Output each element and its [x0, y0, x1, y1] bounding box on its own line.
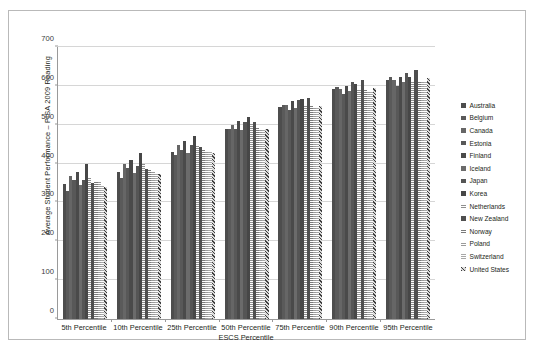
- x-axis-tick-mark: [380, 319, 381, 322]
- bar-group: [381, 47, 435, 319]
- x-axis-title: ESCS Percentile: [57, 333, 435, 342]
- x-axis-tick-label: 95th Percentile: [381, 323, 435, 332]
- legend-item-label: Switzerland: [470, 253, 504, 260]
- legend-item[interactable]: Estonia: [461, 137, 527, 150]
- legend-item[interactable]: United States: [461, 263, 527, 276]
- bar-group: [220, 47, 274, 319]
- legend-item-label: Netherlands: [470, 203, 506, 210]
- legend-swatch-icon: [461, 153, 466, 158]
- legend-item-label: Finland: [470, 152, 492, 159]
- legend-item[interactable]: Japan: [461, 175, 527, 188]
- legend-item-label: Australia: [470, 102, 496, 109]
- plot-area: 0100200300400500600700: [57, 47, 435, 320]
- x-axis-tick-mark: [219, 319, 220, 322]
- y-axis-tick-label: 400: [41, 150, 54, 159]
- bar-group: [273, 47, 327, 319]
- x-axis-tick-mark: [111, 319, 112, 322]
- legend-swatch-icon: [461, 242, 466, 247]
- legend-item-label: Estonia: [470, 140, 492, 147]
- legend-swatch-icon: [461, 229, 466, 234]
- legend-item[interactable]: Belgium: [461, 112, 527, 125]
- y-axis-tick-label: 200: [41, 228, 54, 237]
- legend-item-label: Iceland: [470, 165, 491, 172]
- legend-item-label: New Zealand: [470, 215, 509, 222]
- legend-swatch-icon: [461, 267, 466, 272]
- legend-swatch-icon: [461, 116, 466, 121]
- y-axis-tick-label: 600: [41, 72, 54, 81]
- bar[interactable]: [212, 153, 215, 319]
- chart-page: Average Student Performance – PISA 2009 …: [0, 0, 533, 364]
- y-axis-tick-label: 700: [41, 34, 54, 43]
- legend-item[interactable]: New Zealand: [461, 212, 527, 225]
- y-axis-tick-label: 100: [41, 267, 54, 276]
- legend-item[interactable]: Korea: [461, 187, 527, 200]
- legend-item[interactable]: Iceland: [461, 162, 527, 175]
- legend-swatch-icon: [461, 254, 466, 259]
- bar[interactable]: [158, 174, 161, 319]
- legend-item[interactable]: Switzerland: [461, 250, 527, 263]
- legend-swatch-icon: [461, 103, 466, 108]
- x-axis-tick-mark: [272, 319, 273, 322]
- legend: AustraliaBelgiumCanadaEstoniaFinlandIcel…: [461, 99, 527, 275]
- legend-item[interactable]: Netherlands: [461, 200, 527, 213]
- x-axis-tick-mark: [165, 319, 166, 322]
- legend-item[interactable]: Canada: [461, 124, 527, 137]
- x-axis-tick-label: 5th Percentile: [57, 323, 111, 332]
- legend-swatch-icon: [461, 141, 466, 146]
- legend-item[interactable]: Finland: [461, 149, 527, 162]
- x-axis-tick-label: 90th Percentile: [327, 323, 381, 332]
- legend-item[interactable]: Norway: [461, 225, 527, 238]
- legend-item[interactable]: Poland: [461, 238, 527, 251]
- x-axis-tick-label: 10th Percentile: [111, 323, 165, 332]
- legend-swatch-icon: [461, 128, 466, 133]
- legend-swatch-icon: [461, 216, 466, 221]
- bar-group: [166, 47, 220, 319]
- bar[interactable]: [319, 106, 322, 319]
- legend-item-label: Canada: [470, 127, 493, 134]
- x-axis-tick-label: 25th Percentile: [165, 323, 219, 332]
- legend-item-label: Poland: [470, 240, 491, 247]
- x-axis-tick-label: 75th Percentile: [273, 323, 327, 332]
- bar-group: [112, 47, 166, 319]
- bar[interactable]: [373, 88, 376, 319]
- bar-group: [327, 47, 381, 319]
- bar[interactable]: [104, 187, 107, 319]
- legend-swatch-icon: [461, 191, 466, 196]
- legend-swatch-icon: [461, 179, 466, 184]
- legend-item-label: Norway: [470, 228, 492, 235]
- legend-item[interactable]: Australia: [461, 99, 527, 112]
- legend-swatch-icon: [461, 166, 466, 171]
- x-axis-tick-label: 50th Percentile: [219, 323, 273, 332]
- legend-item-label: Japan: [470, 177, 488, 184]
- bar[interactable]: [265, 129, 268, 319]
- y-axis-tick-label: 300: [41, 189, 54, 198]
- bar[interactable]: [427, 78, 430, 319]
- legend-item-label: Belgium: [470, 114, 494, 121]
- chart-frame: Average Student Performance – PISA 2009 …: [8, 10, 526, 340]
- x-axis-tick-mark: [326, 319, 327, 322]
- y-axis-tick-label: 0: [50, 306, 54, 315]
- bar-group: [58, 47, 112, 319]
- bar-groups: [58, 47, 435, 319]
- x-axis-tick-labels: 5th Percentile10th Percentile25th Percen…: [57, 323, 435, 332]
- y-axis-tick-label: 500: [41, 111, 54, 120]
- legend-item-label: United States: [470, 266, 510, 273]
- legend-item-label: Korea: [470, 190, 488, 197]
- legend-swatch-icon: [461, 204, 466, 209]
